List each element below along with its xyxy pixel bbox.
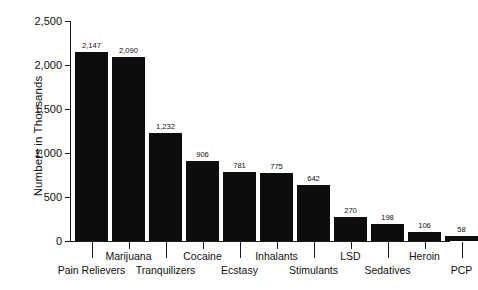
bar: [75, 52, 108, 241]
bar-value-label: 775: [270, 162, 283, 171]
bar: [297, 185, 330, 241]
x-tick-mark: [203, 242, 204, 249]
bar: [149, 133, 182, 241]
x-tick-label: Inhalants: [255, 250, 298, 262]
x-tick-label: LSD: [340, 250, 360, 262]
bar: [223, 172, 256, 241]
x-tick-mark: [425, 242, 426, 249]
x-tick-label: Pain Relievers: [58, 264, 126, 276]
x-tick-label: PCP: [451, 264, 473, 276]
x-tick-mark: [129, 242, 130, 249]
bar: [186, 161, 219, 241]
bar-value-label: 106: [418, 221, 431, 230]
bar: [445, 236, 478, 241]
bar-value-label: 642: [307, 174, 320, 183]
x-tick-mark: [277, 242, 278, 249]
bar-value-label: 58: [457, 225, 465, 234]
x-tick-mark: [314, 242, 315, 258]
bar: [408, 232, 441, 241]
y-tick-label: 2,000: [34, 59, 62, 71]
bar-value-label: 270: [344, 206, 357, 215]
x-tick-mark: [166, 242, 167, 258]
bar-value-label: 906: [196, 150, 209, 159]
x-tick-label: Sedatives: [364, 264, 410, 276]
y-axis-line: [70, 21, 71, 242]
x-tick-mark: [240, 242, 241, 258]
y-tick-mark: [65, 197, 70, 198]
bar-value-label: 198: [381, 213, 394, 222]
x-tick-mark: [351, 242, 352, 249]
y-tick-mark: [65, 109, 70, 110]
y-tick-label: 0: [56, 235, 62, 247]
y-tick-mark: [65, 241, 70, 242]
y-tick-label: 1,500: [34, 103, 62, 115]
x-tick-label: Heroin: [409, 250, 440, 262]
plot-area: 05001,0001,5002,0002,500 2,1472,0901,232…: [70, 21, 450, 241]
y-tick-mark: [65, 153, 70, 154]
x-tick-mark: [92, 242, 93, 258]
y-tick-label: 500: [44, 191, 62, 203]
y-tick-mark: [65, 21, 70, 22]
bar-value-label: 781: [233, 161, 246, 170]
bar: [371, 224, 404, 241]
bar-value-label: 2,090: [119, 46, 138, 55]
y-tick-mark: [65, 65, 70, 66]
bar-value-label: 2,147: [82, 41, 101, 50]
y-tick-label: 2,500: [34, 15, 62, 27]
x-tick-label: Stimulants: [289, 264, 338, 276]
x-axis-line: [70, 241, 450, 242]
x-tick-label: Ecstasy: [221, 264, 258, 276]
bar: [112, 57, 145, 241]
x-tick-label: Tranquilizers: [136, 264, 196, 276]
bar: [260, 173, 293, 241]
x-tick-label: Marijuana: [105, 250, 151, 262]
y-tick-label: 1,000: [34, 147, 62, 159]
x-tick-label: Cocaine: [183, 250, 222, 262]
x-tick-mark: [388, 242, 389, 258]
bar: [334, 217, 367, 241]
bar-value-label: 1,232: [156, 122, 175, 131]
x-tick-mark: [462, 242, 463, 258]
y-axis-title: Numbers in Thousands: [32, 46, 44, 226]
